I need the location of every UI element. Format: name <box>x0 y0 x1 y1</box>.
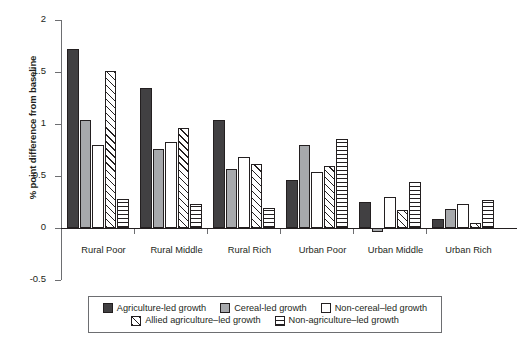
legend-swatch-icon <box>220 303 230 313</box>
bar <box>251 164 263 228</box>
plot-area: 21.510.50-0.5 Rural PoorRural MiddleRura… <box>61 20 517 280</box>
y-tick: 0.5 <box>55 176 61 177</box>
bar <box>92 145 104 228</box>
bar <box>397 210 409 228</box>
legend-swatch-icon <box>321 303 331 313</box>
bar <box>409 182 421 228</box>
y-tick: 2 <box>55 20 61 21</box>
y-tick-label: 0.5 <box>33 169 46 180</box>
bar <box>226 169 238 228</box>
y-tick-label: 0 <box>41 221 46 232</box>
x-axis-category-label: Rural Rich <box>213 245 286 255</box>
bar <box>263 208 275 228</box>
legend-label: Non-agriculture–led growth <box>289 314 399 326</box>
bar-group: Urban Middle <box>359 20 432 280</box>
bar <box>178 128 190 228</box>
legend-label: Cereal-led growth <box>234 302 307 314</box>
x-axis-category-label: Rural Poor <box>67 245 140 255</box>
x-axis-tick <box>134 229 135 234</box>
y-tick-label: -0.5 <box>30 273 46 284</box>
bar <box>384 197 396 228</box>
chart-root: % point difference from baseline 21.510.… <box>0 0 530 351</box>
bar <box>470 223 482 228</box>
bar <box>482 200 494 228</box>
y-tick: 1 <box>55 124 61 125</box>
bar <box>445 209 457 228</box>
legend: Agriculture-led growthCereal-led growthN… <box>88 296 442 333</box>
bar <box>213 120 225 228</box>
bar-group: Rural Rich <box>213 20 286 280</box>
bar-group: Rural Poor <box>67 20 140 280</box>
y-tick-label: 2 <box>41 13 46 24</box>
bar <box>299 145 311 228</box>
bar <box>153 149 165 228</box>
bar <box>457 204 469 228</box>
bar <box>117 199 129 228</box>
bar <box>324 166 336 228</box>
bar <box>311 172 323 228</box>
legend-swatch-icon <box>103 303 113 313</box>
legend-item[interactable]: Non-cereal–led growth <box>321 302 427 314</box>
bar <box>286 180 298 228</box>
bar <box>165 142 177 228</box>
legend-row: Agriculture-led growthCereal-led growthN… <box>95 302 435 314</box>
legend-label: Non-cereal–led growth <box>335 302 427 314</box>
y-axis-line <box>61 20 62 280</box>
bar <box>140 88 152 228</box>
bar <box>190 204 202 228</box>
bar-group: Urban Poor <box>286 20 359 280</box>
x-axis-category-label: Rural Middle <box>140 245 213 255</box>
legend-swatch-icon <box>131 316 141 326</box>
bar <box>238 157 250 228</box>
bar-group: Rural Middle <box>140 20 213 280</box>
x-axis-tick <box>426 229 427 234</box>
x-axis-category-label: Urban Rich <box>432 245 505 255</box>
bar <box>359 202 371 228</box>
bar <box>80 120 92 228</box>
bar <box>432 219 444 228</box>
bar <box>336 139 348 228</box>
x-axis-category-label: Urban Middle <box>359 245 432 255</box>
legend-label: Agriculture-led growth <box>117 302 206 314</box>
y-axis-title: % point difference from baseline <box>27 18 38 238</box>
x-axis-category-label: Urban Poor <box>286 245 359 255</box>
legend-item[interactable]: Allied agriculture–led growth <box>131 314 260 326</box>
legend-item[interactable]: Cereal-led growth <box>220 302 307 314</box>
bar <box>105 71 117 228</box>
bar-group: Urban Rich <box>432 20 505 280</box>
x-axis-tick <box>207 229 208 234</box>
legend-row: Allied agriculture–led growthNon-agricul… <box>95 314 435 326</box>
legend-item[interactable]: Agriculture-led growth <box>103 302 206 314</box>
y-tick-label: 1.5 <box>33 65 46 76</box>
bar <box>372 228 384 232</box>
legend-swatch-icon <box>275 316 285 326</box>
y-tick: -0.5 <box>55 280 61 281</box>
bar <box>67 49 79 228</box>
legend-label: Allied agriculture–led growth <box>145 314 260 326</box>
y-tick-label: 1 <box>41 117 46 128</box>
x-axis-tick <box>353 229 354 234</box>
x-axis-tick <box>280 229 281 234</box>
legend-item[interactable]: Non-agriculture–led growth <box>275 314 399 326</box>
y-tick: 1.5 <box>55 72 61 73</box>
